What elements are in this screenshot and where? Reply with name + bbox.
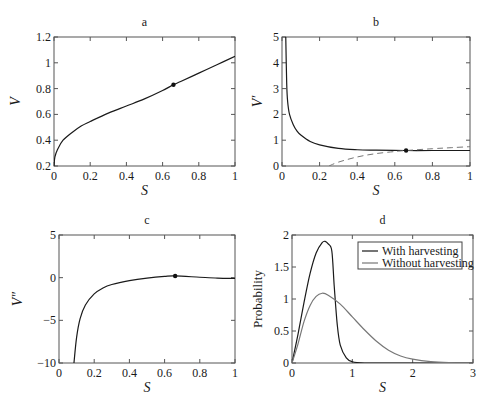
- x-tick-label: 0.2: [312, 169, 327, 183]
- y-tick-label: 0.6: [36, 107, 51, 121]
- y-tick-label: 1.5: [274, 260, 289, 274]
- equilibrium-marker: [404, 148, 408, 152]
- x-tick-label: 0.6: [155, 169, 170, 183]
- x-tick-label: 0: [51, 169, 57, 183]
- equilibrium-marker: [173, 274, 177, 278]
- y-tick-label: 0.4: [36, 133, 51, 147]
- equilibrium-marker: [171, 83, 175, 87]
- y-tick-label: 0.8: [36, 82, 51, 96]
- y-axis-label: V″: [10, 292, 25, 307]
- y-tick-label: 1: [45, 56, 51, 70]
- y-tick-label: 1: [283, 292, 289, 306]
- figure: a00.20.40.60.810.20.40.60.811.2SV b00.20…: [0, 0, 497, 408]
- y-tick-label: 4: [273, 56, 279, 70]
- y-tick-label: 0.5: [274, 324, 289, 338]
- x-tick-label: 3: [470, 366, 476, 380]
- panel-b: b00.20.40.60.81012345SV′: [250, 15, 473, 198]
- y-tick-label: 0: [50, 271, 56, 285]
- y-tick-label: 1.2: [36, 30, 51, 44]
- x-tick-label: 0.8: [191, 169, 206, 183]
- y-tick-label: −5: [43, 313, 56, 327]
- legend-label: Without harvesting: [382, 256, 474, 270]
- x-tick-label: 0.8: [192, 366, 207, 380]
- series-line: [74, 276, 235, 363]
- y-tick-label: 5: [50, 228, 56, 242]
- axes-frame: [54, 37, 235, 166]
- y-tick-label: 5: [273, 30, 279, 44]
- panel-a: a00.20.40.60.810.20.40.60.811.2SV: [8, 15, 238, 198]
- x-tick-label: 0.8: [425, 169, 440, 183]
- y-axis-label: V′: [250, 95, 265, 108]
- x-tick-label: 0: [56, 366, 62, 380]
- x-axis-label: S: [379, 380, 386, 395]
- y-tick-label: 1: [273, 133, 279, 147]
- x-tick-label: 0.6: [387, 169, 402, 183]
- y-tick-label: −10: [37, 356, 56, 370]
- x-tick-label: 0.4: [350, 169, 365, 183]
- x-tick-label: 0.6: [157, 366, 172, 380]
- y-tick-label: 3: [273, 82, 279, 96]
- series-line: [54, 56, 235, 166]
- y-tick-label: 2: [273, 107, 279, 121]
- y-tick-label: 0: [283, 356, 289, 370]
- legend: With harvestingWithout harvesting: [358, 242, 474, 270]
- panel-title: d: [380, 213, 386, 227]
- panel-d: d012300.511.52SProbabilityWith harvestin…: [250, 213, 476, 395]
- y-tick-label: 0: [273, 159, 279, 173]
- x-axis-label: S: [141, 183, 148, 198]
- panel-title: a: [142, 15, 148, 29]
- y-tick-label: 2: [283, 228, 289, 242]
- x-tick-label: 0.2: [83, 169, 98, 183]
- series-line: [292, 293, 473, 363]
- x-tick-label: 0.4: [122, 366, 137, 380]
- panel-c: c00.20.40.60.81−10−505SV″: [10, 213, 238, 395]
- y-tick-label: 0.2: [36, 159, 51, 173]
- panel-title: b: [373, 15, 379, 29]
- x-tick-label: 1: [232, 169, 238, 183]
- x-axis-label: S: [144, 380, 151, 395]
- y-axis-label: Probability: [250, 270, 265, 328]
- x-axis-label: S: [373, 183, 380, 198]
- x-tick-label: 2: [410, 366, 416, 380]
- x-tick-label: 1: [349, 366, 355, 380]
- x-tick-label: 0: [289, 366, 295, 380]
- panel-title: c: [144, 213, 149, 227]
- x-tick-label: 0.4: [119, 169, 134, 183]
- y-axis-label: V: [8, 96, 23, 106]
- x-tick-label: 0: [279, 169, 285, 183]
- x-tick-label: 1: [467, 169, 473, 183]
- axes-frame: [59, 235, 235, 363]
- axes-frame: [282, 37, 470, 166]
- x-tick-label: 0.2: [87, 366, 102, 380]
- x-tick-label: 1: [232, 366, 238, 380]
- series-line: [286, 37, 470, 151]
